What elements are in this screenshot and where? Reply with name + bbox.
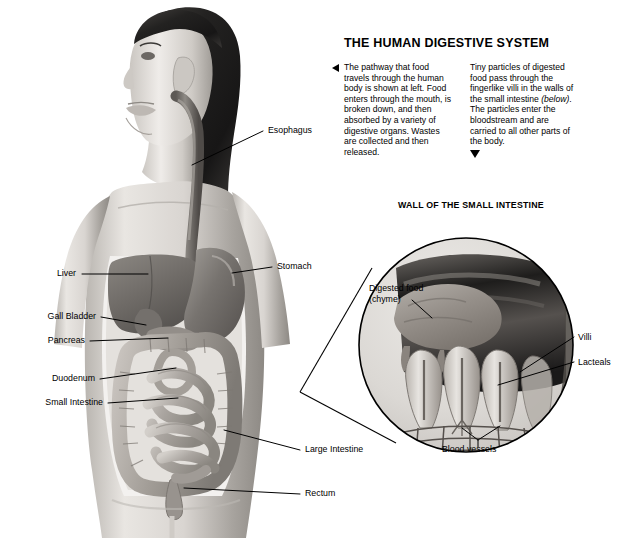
label-stomach: Stomach: [277, 261, 312, 272]
label-small-intestine: Small Intestine: [2, 397, 103, 408]
label-villi: Villi: [578, 332, 592, 343]
small-intestine-wall-inset: [300, 238, 584, 462]
eye: [141, 52, 155, 60]
label-esophagus: Esophagus: [268, 125, 312, 136]
pathway-blurb: The pathway that food travels through th…: [344, 62, 454, 157]
digestive-system-poster: THE HUMAN DIGESTIVE SYSTEM The pathway t…: [0, 0, 619, 538]
triangle-down-icon: [470, 150, 480, 158]
villi-blurb: Tiny particles of digested food pass thr…: [470, 62, 574, 158]
label-duodenum: Duodenum: [2, 373, 95, 384]
page-title: THE HUMAN DIGESTIVE SYSTEM: [344, 36, 549, 50]
label-lacteals: Lacteals: [578, 357, 611, 368]
inset-title: WALL OF THE SMALL INTESTINE: [398, 200, 544, 210]
label-rectum: Rectum: [305, 488, 335, 499]
label-gall-bladder: Gall Bladder: [2, 311, 96, 322]
label-digested-food-line2: (chyme): [369, 294, 401, 305]
digested-food-chyme: [394, 284, 502, 350]
villi-blurb-text-italic: (below): [541, 94, 569, 104]
label-liver: Liver: [2, 268, 76, 279]
label-digested-food-line1: Digested food: [369, 283, 423, 294]
pathway-blurb-text: The pathway that food travels through th…: [344, 62, 451, 157]
label-blood-vessels: Blood vessels: [442, 444, 496, 455]
human-body-illustration: [54, 7, 290, 538]
triangle-left-icon: [332, 64, 339, 72]
label-pancreas: Pancreas: [2, 335, 85, 346]
label-large-intestine: Large Intestine: [305, 444, 363, 455]
